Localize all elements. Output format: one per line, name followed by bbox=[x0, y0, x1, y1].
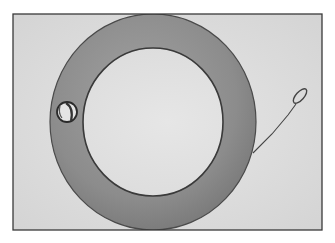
ring-hole bbox=[57, 102, 77, 122]
photo bbox=[0, 0, 335, 243]
metal-ring bbox=[50, 14, 256, 230]
